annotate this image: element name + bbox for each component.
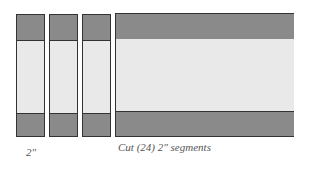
segment-bottom-dark (82, 113, 111, 137)
strip-set-remainder (115, 13, 294, 137)
cut-segment-1 (16, 14, 45, 137)
cut-segment-3 (82, 14, 111, 137)
segment-top-dark (16, 14, 45, 41)
segment-width-label: 2" (26, 146, 36, 158)
cut-segment-2 (49, 14, 78, 137)
segment-top-dark (82, 14, 111, 41)
segment-middle-light (82, 40, 111, 114)
segment-bottom-dark (49, 113, 78, 137)
cut-instruction-caption: Cut (24) 2" segments (118, 141, 211, 153)
segment-top-dark (49, 14, 78, 41)
strip-set-bottom-dark (115, 111, 294, 137)
segment-middle-light (49, 40, 78, 114)
strip-set-top-dark (115, 13, 294, 40)
strip-set-middle-light (115, 39, 294, 113)
segment-middle-light (16, 40, 45, 114)
segment-bottom-dark (16, 113, 45, 137)
